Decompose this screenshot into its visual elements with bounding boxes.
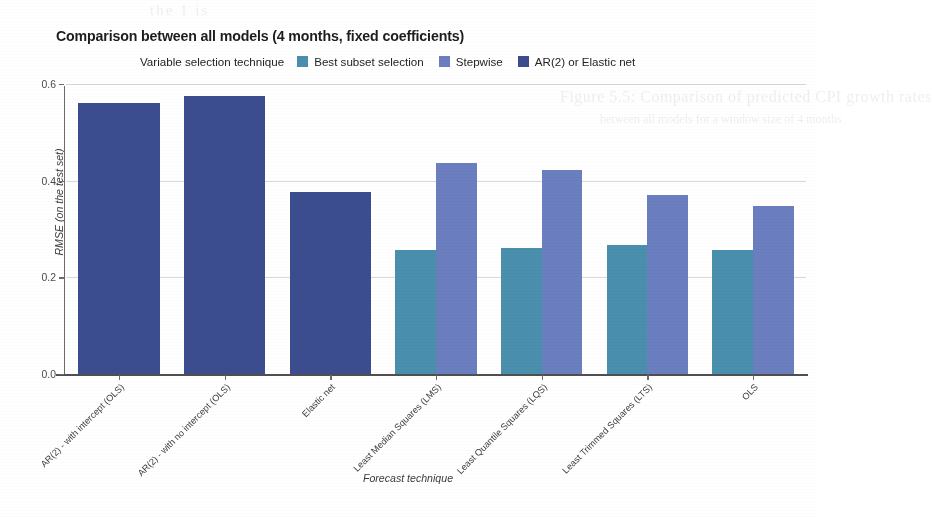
bar-group [395,84,476,374]
legend-title: Variable selection technique [140,55,284,68]
y-axis-line [64,86,65,374]
y-axis-tick-mark [59,84,64,85]
x-axis-tick-mark [647,375,648,380]
legend-swatch-stepwise [439,56,450,67]
bar [712,250,753,374]
y-axis-tick-label: 0.2 [26,272,56,283]
bar-group [184,84,265,374]
legend-entry-stepwise: Stepwise [439,55,503,68]
bar [78,103,159,374]
legend-entry-best-subset-selection: Best subset selection [297,55,424,68]
plot-area [66,84,806,374]
x-axis-tick-mark [225,375,226,380]
bar [290,192,371,374]
y-axis-tick-mark [59,374,64,375]
bar [436,163,477,374]
x-axis-tick-mark [330,375,331,380]
bar-group [712,84,793,374]
bar [184,96,265,374]
y-axis-tick-labels: 0.00.20.40.6 [22,0,56,517]
bar [542,170,583,374]
legend-entry-ar2-or-elastic-net: AR(2) or Elastic net [518,55,636,68]
bar [607,245,648,374]
x-axis-tick-mark [542,375,543,380]
x-axis-title: Forecast technique [0,472,816,484]
bar [647,195,688,374]
legend-label-ar2-or-elastic-net: AR(2) or Elastic net [535,55,636,68]
legend-swatch-ar2-or-elastic-net [518,56,529,67]
legend-label-best-subset-selection: Best subset selection [314,55,424,68]
x-axis-tick-label: AR(2) - with intercept (OLS) [0,382,126,517]
y-axis-tick-label: 0.4 [26,175,56,186]
x-axis-tick-mark [753,375,754,380]
legend-swatch-best-subset-selection [297,56,308,67]
y-axis-tick-label: 0.6 [26,79,56,90]
bar-group [290,84,371,374]
bar-group [501,84,582,374]
plot-inner [66,84,806,374]
bar [753,206,794,374]
x-axis-tick-mark [119,375,120,380]
legend-label-stepwise: Stepwise [456,55,503,68]
bar [501,248,542,374]
bar [395,250,436,374]
x-axis-line [56,374,808,376]
y-axis-tick-label: 0.0 [26,369,56,380]
y-axis-tick-mark [59,277,64,278]
x-axis-tick-mark [436,375,437,380]
y-axis-tick-mark [59,181,64,182]
chart-legend: Variable selection technique Best subset… [140,55,641,68]
bar-group [78,84,159,374]
chart-title: Comparison between all models (4 months,… [56,28,464,44]
bar-group [607,84,688,374]
